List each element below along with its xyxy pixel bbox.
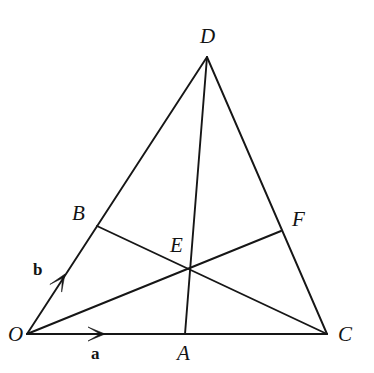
vector-label-a: a: [91, 345, 100, 362]
figure-canvas: [0, 0, 374, 373]
vertex-label-O: O: [8, 324, 23, 345]
vertex-label-D: D: [200, 26, 215, 47]
segment-D-C: [207, 57, 327, 334]
segment-O-D: [27, 57, 207, 334]
vertex-label-C: C: [338, 324, 352, 345]
vector-label-b: b: [33, 261, 42, 278]
vector-b-arrowhead: [50, 274, 65, 292]
segment-B-C: [97, 226, 327, 334]
vertex-label-B: B: [72, 203, 85, 224]
vertex-label-E: E: [170, 235, 183, 256]
vertex-label-F: F: [292, 209, 305, 230]
geometry-figure: O C D B F A E a b: [0, 0, 374, 373]
segment-D-A: [185, 57, 207, 334]
vertex-label-A: A: [177, 343, 190, 364]
segment-O-F: [27, 231, 281, 334]
